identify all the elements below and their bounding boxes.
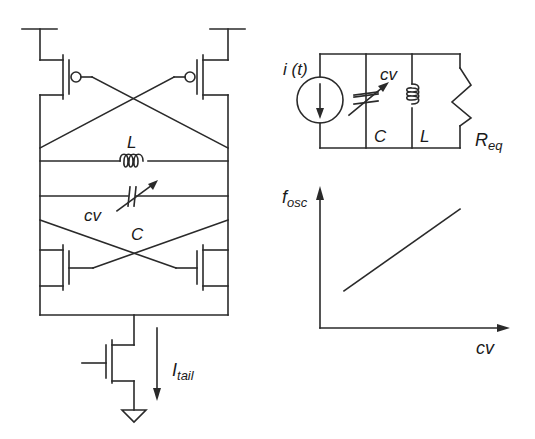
tuning-curve-chart: fosc cv (282, 186, 510, 358)
varactor-icon (40, 180, 228, 211)
nmos-left-icon (40, 245, 93, 290)
tank-inductor-icon (407, 54, 419, 148)
pmos-right-icon (174, 55, 228, 99)
tail-current-arrow-icon (153, 328, 161, 401)
x-axis-label: cv (476, 338, 495, 358)
nmos-right-icon (176, 245, 228, 290)
resistor-label: Req (475, 130, 503, 153)
cv-label: cv (84, 206, 103, 225)
resistor-icon (452, 54, 471, 148)
source-label: i (t) (283, 60, 308, 79)
tank-inductor-label: L (420, 127, 429, 146)
diagram-canvas: L cv C (0, 0, 535, 439)
tank-model: i (t) cv C L Req (283, 54, 503, 153)
vco-schematic: L cv C (22, 29, 245, 422)
tail-nmos-icon (82, 340, 134, 410)
pmos-left-icon (40, 55, 92, 99)
tuning-line (344, 209, 460, 291)
capacitor-label: C (131, 225, 144, 244)
tail-current-label: Itail (172, 360, 195, 383)
tank-cv-label: cv (380, 65, 399, 84)
inductor-icon (40, 154, 228, 167)
ground-icon (122, 410, 146, 422)
y-axis-label: fosc (282, 187, 308, 210)
tank-capacitor-label: C (374, 127, 387, 146)
inductor-label: L (127, 133, 136, 152)
